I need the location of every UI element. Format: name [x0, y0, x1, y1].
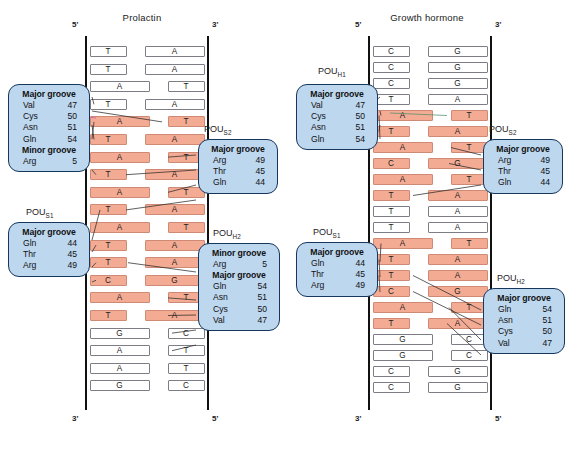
base-right-g: G — [428, 382, 488, 393]
residue-number: 51 — [67, 122, 77, 133]
base-left-c: C — [373, 46, 410, 57]
base-left-c: C — [373, 158, 410, 169]
base-right-a: A — [145, 310, 205, 321]
base-right-t: T — [168, 222, 205, 233]
residue-number: 54 — [355, 134, 365, 145]
residue-number: 47 — [257, 315, 267, 326]
base-left-a: A — [373, 174, 433, 185]
pou-label-name: POU — [204, 124, 224, 134]
base-left-t: T — [90, 240, 127, 251]
residue-name: Val — [311, 100, 323, 111]
base-right-a: A — [145, 204, 205, 215]
pou-label-subscript: S2 — [509, 129, 517, 136]
residue-name: Gln — [213, 281, 226, 292]
residue-number: 51 — [257, 292, 267, 303]
residue-number: 5 — [262, 259, 267, 270]
base-left-a: A — [90, 363, 150, 374]
callout-pou-h1[interactable]: Major grooveVal47Cys50Asn51Gln54 — [296, 84, 378, 150]
base-right-g: G — [428, 158, 488, 169]
base-right-a: A — [428, 206, 488, 217]
residue-number: 54 — [67, 134, 77, 145]
base-left-t: T — [90, 169, 127, 180]
base-left-t: T — [373, 254, 410, 265]
base-left-t: T — [90, 64, 127, 75]
residue-number: 45 — [255, 166, 265, 177]
callout-pou-s1[interactable]: Major grooveGln44Thr45Arg49 — [296, 242, 378, 297]
residue-name: Cys — [311, 111, 326, 122]
residue-row: Gln44 — [489, 177, 557, 188]
base-right-t: T — [168, 345, 205, 356]
pou-label-name: POU — [497, 273, 517, 283]
residue-name: Asn — [311, 122, 326, 133]
base-left-t: T — [90, 310, 127, 321]
residue-name: Gln — [498, 177, 511, 188]
residue-name: Gln — [23, 238, 36, 249]
base-right-t: T — [451, 302, 488, 313]
residue-number: 44 — [355, 258, 365, 269]
base-left-t: T — [373, 270, 410, 281]
residue-number: 51 — [542, 315, 552, 326]
residue-number: 51 — [355, 122, 365, 133]
residue-name: Arg — [23, 156, 36, 167]
base-left-a: A — [90, 292, 150, 303]
base-right-a: A — [145, 169, 205, 180]
callout-pou-s2[interactable]: Major grooveArg49Thr45Gln44 — [483, 139, 563, 194]
callout-pou-s2[interactable]: Major grooveArg49Thr45Gln44 — [198, 139, 278, 194]
panel-title-prolactin: Prolactin — [0, 12, 284, 23]
residue-row: Gln44 — [14, 238, 84, 249]
dna-backbone-right — [490, 36, 492, 410]
base-right-g: G — [428, 62, 488, 73]
base-left-t: T — [90, 99, 127, 110]
residue-row: Cys50 — [489, 326, 559, 337]
residue-row: Arg49 — [14, 260, 84, 271]
base-right-a: A — [145, 46, 205, 57]
base-left-a: A — [373, 110, 433, 121]
base-left-t: T — [373, 206, 410, 217]
base-left-t: T — [373, 318, 410, 329]
pou-label-name: POU — [313, 227, 333, 237]
residue-row: Gln54 — [204, 281, 274, 292]
callout-pou-s1[interactable]: Major grooveGln44Thr45Arg49 — [8, 222, 90, 277]
residue-row: Arg49 — [489, 155, 557, 166]
callout-pou-h1[interactable]: Major grooveVal47Cys50Asn51Gln54Minor gr… — [8, 84, 90, 172]
residue-name: Thr — [498, 166, 511, 177]
residue-row: Thr45 — [14, 249, 84, 260]
base-left-g: G — [373, 350, 433, 361]
base-left-t: T — [373, 190, 410, 201]
base-right-a: A — [428, 318, 488, 329]
residue-name: Asn — [213, 292, 228, 303]
residue-row: Thr45 — [204, 166, 272, 177]
pou-label-pou-h2: POUH2 — [213, 228, 241, 240]
residue-number: 47 — [67, 100, 77, 111]
pou-label-pou-s1: POUS1 — [26, 207, 54, 219]
base-right-t: T — [451, 142, 488, 153]
residue-name: Cys — [498, 326, 513, 337]
end-label-bottom-right: 5' — [212, 414, 218, 423]
residue-row: Val47 — [14, 100, 84, 111]
residue-number: 44 — [67, 238, 77, 249]
residue-name: Gln — [311, 258, 324, 269]
residue-number: 49 — [540, 155, 550, 166]
residue-row: Gln54 — [302, 134, 372, 145]
groove-header: Major groove — [489, 144, 557, 154]
residue-row: Thr45 — [489, 166, 557, 177]
groove-header: Major groove — [204, 144, 272, 154]
residue-number: 50 — [542, 326, 552, 337]
residue-name: Asn — [23, 122, 38, 133]
base-right-g: G — [428, 366, 488, 377]
groove-header: Major groove — [14, 89, 84, 99]
base-right-t: T — [451, 110, 488, 121]
base-right-a: A — [428, 94, 488, 105]
callout-pou-h2[interactable]: Minor grooveArg5Major grooveGln54Asn51Cy… — [198, 243, 280, 331]
base-right-t: T — [451, 238, 488, 249]
residue-row: Asn51 — [14, 122, 84, 133]
callout-pou-h2[interactable]: Major grooveGln54Asn51Cys50Val47 — [483, 288, 565, 354]
groove-header: Major groove — [204, 270, 274, 280]
base-right-t: T — [168, 116, 205, 127]
base-left-c: C — [373, 78, 410, 89]
residue-row: Arg49 — [204, 155, 272, 166]
base-right-a: A — [145, 240, 205, 251]
pou-label-pou-h1: POUH1 — [318, 66, 346, 78]
residue-number: 47 — [355, 100, 365, 111]
residue-number: 5 — [72, 156, 77, 167]
